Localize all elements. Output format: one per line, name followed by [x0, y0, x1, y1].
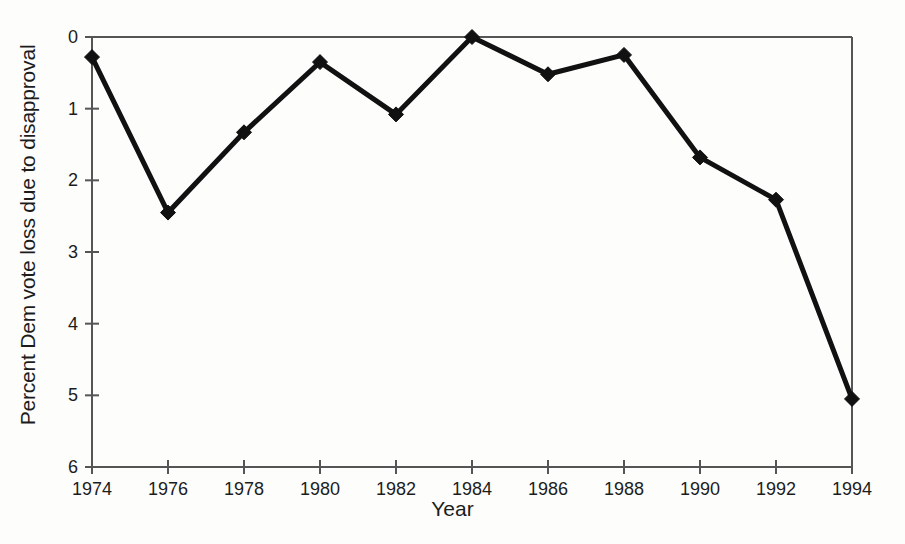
y-axis-ticks: 0123456 — [68, 27, 99, 477]
x-tick-label: 1974 — [72, 479, 112, 499]
y-tick-label: 4 — [68, 314, 78, 334]
data-series-line — [92, 37, 852, 399]
x-axis-title: Year — [0, 497, 905, 521]
y-tick-label: 2 — [68, 170, 78, 190]
y-tick-label: 3 — [68, 242, 78, 262]
x-tick-label: 1994 — [832, 479, 872, 499]
chart-figure: Percent Dem vote loss due to disapproval… — [0, 0, 905, 544]
x-tick-label: 1984 — [452, 479, 492, 499]
x-tick-label: 1978 — [224, 479, 264, 499]
plot-frame — [92, 37, 852, 467]
y-tick-label: 0 — [68, 27, 78, 47]
y-tick-label: 5 — [68, 385, 78, 405]
data-point-marker — [845, 391, 860, 406]
y-tick-label: 6 — [68, 457, 78, 477]
x-axis-ticks: 1974197619781980198219841986198819901992… — [72, 460, 872, 499]
data-series-markers — [85, 30, 860, 407]
x-tick-label: 1976 — [148, 479, 188, 499]
x-tick-label: 1982 — [376, 479, 416, 499]
y-tick-label: 1 — [68, 99, 78, 119]
line-chart-plot: 0123456 19741976197819801982198419861988… — [0, 0, 905, 544]
x-tick-label: 1980 — [300, 479, 340, 499]
x-tick-label: 1988 — [604, 479, 644, 499]
x-tick-label: 1990 — [680, 479, 720, 499]
x-tick-label: 1986 — [528, 479, 568, 499]
series-polyline — [92, 37, 852, 399]
x-tick-label: 1992 — [756, 479, 796, 499]
